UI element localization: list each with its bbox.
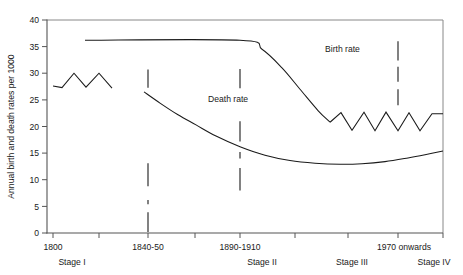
y-tick-labels: 0 5 10 15 20 25 30 35 40: [29, 15, 39, 238]
stage-label-iv: Stage IV: [418, 257, 451, 267]
y-tick-label: 20: [29, 122, 39, 132]
x-tick-labels: 1800 1840-50 1890-1910 1970 onwards: [43, 242, 431, 252]
chart-canvas: 0 5 10 15 20 25 30 35 40 Annual birth an…: [0, 0, 463, 275]
y-tick-label: 15: [29, 148, 39, 158]
stage-label-ii: Stage II: [247, 257, 277, 267]
x-tick-label-1970-onwards: 1970 onwards: [377, 242, 431, 252]
y-tick-label: 10: [29, 175, 39, 185]
birth-rate-label: Birth rate: [325, 44, 360, 54]
demographic-transition-chart: 0 5 10 15 20 25 30 35 40 Annual birth an…: [0, 0, 463, 275]
series-annotations: Birth rate Death rate: [208, 44, 360, 104]
y-tick-label: 30: [29, 68, 39, 78]
birth-rate-stage-III-IV-oscillation: [330, 112, 443, 131]
y-axis-title: Annual birth and death rates per 1000: [6, 54, 16, 199]
x-tick-label-1800: 1800: [43, 242, 62, 252]
stage-label-iii: Stage III: [336, 257, 368, 267]
x-tick-marks: [53, 233, 443, 238]
y-tick-label: 25: [29, 95, 39, 105]
y-tick-label: 0: [34, 228, 39, 238]
death-rate-stage-I-fluctuation: [53, 73, 112, 88]
y-tick-label: 35: [29, 42, 39, 52]
y-tick-label: 40: [29, 15, 39, 25]
stage-divider-lines: [148, 41, 398, 232]
plot-frame-top-right: [47, 20, 443, 233]
y-tick-marks: [42, 20, 47, 233]
stage-labels: Stage I Stage II Stage III Stage IV: [58, 257, 450, 267]
birth-rate-stage-II-plateau-and-decline: [85, 40, 330, 123]
x-tick-label-1890-1910: 1890-1910: [219, 242, 260, 252]
death-rate-label: Death rate: [208, 94, 248, 104]
y-tick-label: 5: [34, 202, 39, 212]
stage-label-i: Stage I: [58, 257, 85, 267]
x-tick-label-1840-50: 1840-50: [132, 242, 164, 252]
